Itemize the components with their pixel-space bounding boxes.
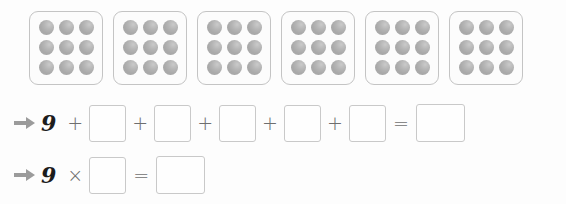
times-sign: × xyxy=(67,166,83,185)
dot xyxy=(415,60,430,75)
dot xyxy=(291,60,306,75)
first-operand: 9 xyxy=(41,112,56,134)
dot xyxy=(163,40,178,55)
dot xyxy=(39,20,54,35)
dot xyxy=(123,20,138,35)
dot xyxy=(143,60,158,75)
dot xyxy=(39,60,54,75)
dot xyxy=(123,40,138,55)
dot xyxy=(59,20,74,35)
addition-equation-row: 9 + + + + + = xyxy=(0,100,465,146)
dot xyxy=(79,20,94,35)
dot-box xyxy=(113,11,187,85)
dot xyxy=(331,40,346,55)
dot xyxy=(331,20,346,35)
dot xyxy=(479,60,494,75)
addend-blank-2[interactable] xyxy=(154,105,191,142)
addend-blank-3[interactable] xyxy=(219,105,256,142)
dot xyxy=(479,20,494,35)
dot xyxy=(375,20,390,35)
dot xyxy=(79,40,94,55)
dot xyxy=(459,20,474,35)
arrow-right-icon xyxy=(14,168,36,182)
dot-box xyxy=(281,11,355,85)
dot xyxy=(459,40,474,55)
dot xyxy=(311,60,326,75)
dot xyxy=(415,20,430,35)
dot xyxy=(499,40,514,55)
first-operand: 9 xyxy=(41,164,56,186)
dot xyxy=(291,40,306,55)
dot xyxy=(59,60,74,75)
dot xyxy=(59,40,74,55)
plus-sign: + xyxy=(262,114,278,133)
dot xyxy=(247,20,262,35)
plus-sign: + xyxy=(327,114,343,133)
dot-box xyxy=(29,11,103,85)
dot xyxy=(207,20,222,35)
multiplier-blank[interactable] xyxy=(89,157,126,194)
dot xyxy=(395,20,410,35)
dot xyxy=(247,40,262,55)
addend-blank-1[interactable] xyxy=(89,105,126,142)
addend-blank-5[interactable] xyxy=(349,105,386,142)
dot-box xyxy=(365,11,439,85)
dot-box xyxy=(197,11,271,85)
dot xyxy=(375,60,390,75)
addend-blank-4[interactable] xyxy=(284,105,321,142)
multiplication-result-blank[interactable] xyxy=(156,156,205,194)
dot xyxy=(227,60,242,75)
dot xyxy=(311,40,326,55)
plus-sign: + xyxy=(197,114,213,133)
dot xyxy=(459,60,474,75)
dot xyxy=(415,40,430,55)
addition-result-blank[interactable] xyxy=(416,104,465,142)
plus-sign: + xyxy=(67,114,83,133)
dot-box xyxy=(449,11,523,85)
dot xyxy=(395,60,410,75)
dot xyxy=(207,40,222,55)
dot xyxy=(479,40,494,55)
dot xyxy=(499,20,514,35)
dot xyxy=(123,60,138,75)
dot xyxy=(375,40,390,55)
dot xyxy=(331,60,346,75)
dot xyxy=(311,20,326,35)
dot xyxy=(163,20,178,35)
equals-sign: = xyxy=(133,166,149,185)
dot xyxy=(143,20,158,35)
dot xyxy=(207,60,222,75)
dot xyxy=(163,60,178,75)
dot xyxy=(79,60,94,75)
dot xyxy=(247,60,262,75)
multiplication-equation-row: 9 × = xyxy=(0,152,205,198)
plus-sign: + xyxy=(132,114,148,133)
equals-sign: = xyxy=(393,114,409,133)
dot-box-row xyxy=(0,0,566,95)
dot xyxy=(227,20,242,35)
dot xyxy=(395,40,410,55)
arrow-right-icon xyxy=(14,116,36,130)
dot xyxy=(39,40,54,55)
dot xyxy=(227,40,242,55)
dot xyxy=(143,40,158,55)
dot xyxy=(291,20,306,35)
dot xyxy=(499,60,514,75)
